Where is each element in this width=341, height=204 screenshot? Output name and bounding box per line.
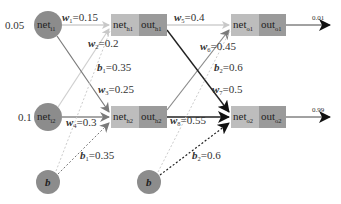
weight-label-w3: w3=0.25 xyxy=(98,83,135,96)
o1-target-value: 0.01 xyxy=(312,14,325,22)
weight-label-w7: w7=0.5 xyxy=(212,83,243,96)
h2-out-label: out xyxy=(141,110,155,122)
weight-label-w6: w6=0.45 xyxy=(200,40,237,53)
neural-network-diagram: 0.05 neti1 0.1 neti2 b b neth1 outh1 net… xyxy=(0,0,341,204)
h1-out-label: out xyxy=(141,18,155,30)
bias-node-b2: b xyxy=(137,170,161,194)
weight-label-w8: w8=0.55 xyxy=(170,114,207,127)
o1-net-label: net xyxy=(233,18,246,30)
o2-out-label: out xyxy=(261,110,275,122)
bias-label-b2-lower: b2=0.6 xyxy=(192,149,221,162)
bias-node-b2-label: b xyxy=(146,176,152,188)
h2-net-label: net xyxy=(113,110,126,122)
weight-label-w4: w4=0.3 xyxy=(66,116,97,129)
input-node-i2: 0.1 neti2 xyxy=(18,103,62,131)
input-label-i1: net xyxy=(37,18,50,30)
weight-label-w1: w1=0.15 xyxy=(62,11,99,24)
input-node-i1: 0.05 neti1 xyxy=(5,11,62,39)
input-value-i2: 0.1 xyxy=(18,111,32,123)
hidden-node-h1: neth1 outh1 xyxy=(111,14,167,36)
hidden-node-h2: neth2 outh2 xyxy=(111,106,167,128)
input-label-i2: net xyxy=(37,110,50,122)
input-sub-i2: i2 xyxy=(50,117,55,124)
bias-node-b1: b xyxy=(36,170,60,194)
weight-label-w5: w5=0.4 xyxy=(174,11,205,24)
bias-label-b2-upper: b2=0.6 xyxy=(214,61,243,74)
bias-label-b1-lower: b1=0.35 xyxy=(80,149,115,162)
h1-net-label: net xyxy=(113,18,126,30)
bias-label-b1-upper: b1=0.35 xyxy=(97,61,132,74)
o1-out-label: out xyxy=(261,18,275,30)
o2-net-label: net xyxy=(233,110,246,122)
o2-target-value: 0.99 xyxy=(312,106,325,114)
input-sub-i1: i1 xyxy=(50,25,55,32)
input-value-i1: 0.05 xyxy=(5,19,25,31)
weight-label-w2: w2=0.2 xyxy=(88,37,119,50)
bias-node-b1-label: b xyxy=(45,176,51,188)
